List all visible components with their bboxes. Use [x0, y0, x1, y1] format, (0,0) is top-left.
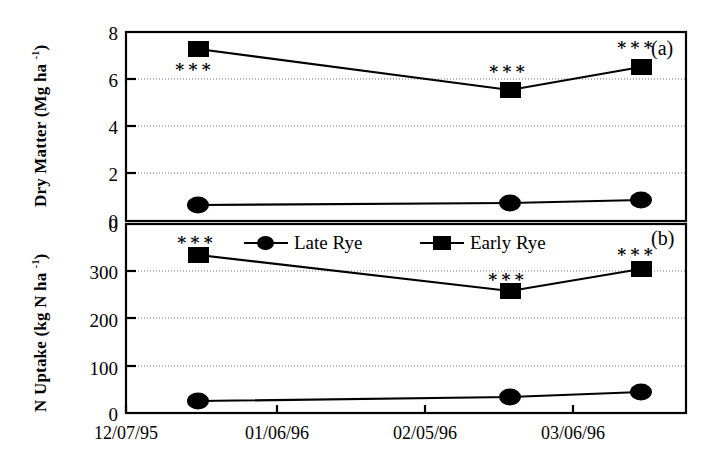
panel-a-y-axis-title-close: ) [31, 45, 50, 51]
panel-b-y-axis-title: N Uptake (kg N ha -1) [30, 254, 51, 412]
panel-a-ytick-4: 4 [62, 118, 118, 137]
panel-b-marker-early-rye-3 [631, 261, 652, 277]
panel-b-ytick-200: 200 [62, 311, 118, 330]
xtick-label-4: 03/06/96 [513, 424, 633, 442]
panel-a-significance-2: ∗∗∗ [488, 60, 528, 77]
panel-b-group [126, 224, 686, 413]
panel-b-y-axis-title-main: N Uptake (kg N ha [31, 268, 50, 412]
legend-entry-early-rye[interactable]: Early Rye [420, 233, 546, 252]
panel-b-yticks [126, 271, 136, 366]
panel-a-marker-late-rye-1 [187, 197, 209, 214]
legend-entry-late-rye[interactable]: Late Rye [244, 233, 362, 252]
panel-b-xticks [126, 405, 573, 413]
panel-b-ytick-100: 100 [62, 359, 118, 378]
panel-a-marker-early-rye-3 [631, 59, 652, 75]
panel-a-marker-early-rye-2 [500, 82, 521, 98]
panel-a-yticks [126, 79, 136, 173]
panel-a-significance-3: ∗∗∗ [616, 36, 656, 53]
panel-a-y-axis-title: Dry Matter (Mg ha -1) [30, 45, 51, 207]
panel-a-series-early-rye-line [198, 49, 641, 90]
panel-b-frame [126, 224, 686, 413]
panel-a-y-axis-title-main: Dry Matter (Mg ha [31, 59, 50, 207]
panel-b-marker-late-rye-2 [499, 389, 521, 406]
panel-a-ytick-2: 2 [62, 165, 118, 184]
panel-a-significance-1: ∗∗∗ [174, 58, 214, 75]
panel-b-ytick-top-0: 0 [62, 216, 118, 235]
panel-b-significance-2: ∗∗∗ [487, 268, 527, 285]
panel-a-marker-early-rye-1 [188, 41, 209, 57]
panel-b-significance-3: ∗∗∗ [616, 243, 656, 260]
panel-b-y-axis-title-exponent: -1 [30, 259, 41, 268]
panel-b-gridlines [126, 271, 686, 366]
panel-b-series-late-rye-line [198, 392, 641, 401]
panel-b-series-early-rye-line [198, 255, 641, 291]
legend-marker-circle-icon [244, 236, 288, 250]
xtick-label-2: 01/06/96 [217, 424, 337, 442]
panel-a-ytick-6: 6 [62, 71, 118, 90]
panel-a-gridlines [126, 79, 686, 173]
legend-marker-square-icon [420, 236, 464, 250]
figure-chart: Dry Matter (Mg ha -1) 8 6 4 2 0 N Uptake… [0, 0, 724, 474]
panel-b-y-axis-title-close: ) [31, 254, 50, 260]
panel-b-ytick-0: 0 [62, 405, 118, 424]
legend-label-late-rye: Late Rye [294, 233, 362, 252]
panel-b-ytick-300: 300 [62, 263, 118, 282]
panel-b-marker-late-rye-3 [630, 384, 652, 401]
panel-a-series-late-rye-line [198, 200, 641, 205]
legend-label-early-rye: Early Rye [470, 233, 546, 252]
panel-a-y-axis-title-exponent: -1 [30, 51, 41, 60]
panel-a-marker-late-rye-3 [630, 192, 652, 209]
panel-a-marker-late-rye-2 [499, 195, 521, 212]
panel-b-marker-late-rye-1 [187, 393, 209, 410]
xtick-label-1: 12/07/95 [66, 424, 186, 442]
xtick-label-3: 02/05/96 [365, 424, 485, 442]
panel-b-significance-1: ∗∗∗ [176, 231, 216, 248]
panel-a-ytick-8: 8 [62, 24, 118, 43]
panel-b-marker-early-rye-1 [188, 247, 209, 263]
